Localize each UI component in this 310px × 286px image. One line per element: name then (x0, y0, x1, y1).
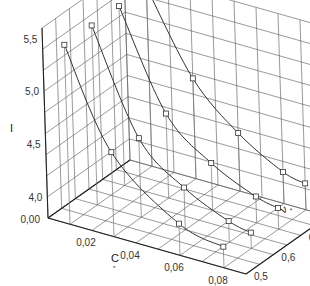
square-marker (62, 42, 67, 47)
series-curve (146, 0, 305, 183)
square-marker (221, 244, 226, 249)
square-marker (226, 219, 231, 224)
tick-label: 4,5 (27, 139, 41, 150)
tick-label: 0,5 (254, 271, 268, 282)
3d-line-chart: 4,04,55,05,50,000,020,040,060,080,50,60,… (0, 0, 310, 286)
tick-label: 0,04 (120, 250, 140, 261)
square-marker (303, 181, 308, 186)
square-marker (117, 4, 122, 9)
series-curve (92, 25, 251, 232)
square-marker (281, 169, 286, 174)
square-marker (209, 160, 214, 165)
svg-text:*: * (113, 265, 116, 271)
tick-label: 0,02 (76, 237, 96, 248)
tick-label: 0,6 (281, 252, 295, 263)
tick-label: 5,5 (23, 34, 37, 45)
square-marker (136, 136, 141, 141)
series-curve (119, 6, 278, 208)
tick-labels: 4,04,55,05,50,000,020,040,060,080,50,60,… (21, 34, 310, 286)
tick-label: 0,00 (21, 214, 41, 225)
tick-label: 0,7 (309, 232, 310, 243)
z-axis-label: I (10, 122, 13, 134)
square-marker (253, 194, 258, 199)
square-marker (190, 76, 195, 81)
square-marker (109, 150, 114, 155)
tick-label: 5,0 (25, 86, 39, 97)
square-marker (89, 23, 94, 28)
grid (42, 0, 310, 274)
tick-label: 0,08 (208, 275, 228, 286)
svg-text:*: * (289, 207, 295, 214)
x-axis-label: C * (111, 252, 119, 271)
square-marker (248, 230, 253, 235)
tick-label: 0,06 (164, 262, 184, 273)
svg-text:C: C (111, 252, 119, 264)
square-marker (236, 131, 241, 136)
square-marker (182, 185, 187, 190)
square-marker (164, 111, 169, 116)
tick-label: 4,0 (28, 192, 42, 203)
square-marker (177, 221, 182, 226)
